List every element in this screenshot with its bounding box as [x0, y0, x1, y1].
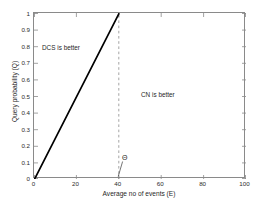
- plot-area: [33, 12, 245, 178]
- y-tick-label: 1: [2, 9, 30, 16]
- x-axis-title: Average no of events (E): [33, 190, 245, 197]
- x-tick-label: 80: [190, 180, 216, 188]
- chart-figure: 1 0.9 0.8 0.7 0.6 0.5 0.4 0.3 0.2 0.1 0 …: [0, 0, 257, 208]
- x-tick-label: 20: [62, 180, 88, 188]
- plot-canvas: [34, 13, 246, 179]
- y-axis-title: Query probability (Q): [11, 32, 18, 152]
- x-tick-label: 100: [232, 180, 258, 188]
- theta-marker-label: Θ: [122, 154, 127, 161]
- y-tick-marks: [34, 14, 246, 179]
- x-tick-labels: 0 20 40 60 80 100: [33, 180, 245, 190]
- cn-region-label: CN is better: [141, 91, 175, 98]
- x-tick-label: 60: [147, 180, 173, 188]
- x-tick-label: 40: [105, 180, 131, 188]
- y-tick-label: 0.1: [2, 158, 30, 165]
- theta-leader-line: [118, 162, 122, 177]
- x-tick-label: 0: [21, 180, 47, 188]
- dcs-region-label: DCS is better: [42, 44, 80, 51]
- boundary-solid-line: [35, 14, 119, 179]
- x-tick-marks: [35, 13, 246, 179]
